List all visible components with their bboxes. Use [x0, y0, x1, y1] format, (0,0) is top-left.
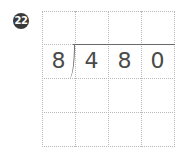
grid-line [42, 78, 175, 79]
answer-cell[interactable] [108, 11, 141, 45]
answer-cell[interactable] [75, 11, 108, 45]
grid-line [42, 112, 175, 113]
answer-cell[interactable] [141, 11, 174, 45]
grid-line [174, 11, 175, 147]
dividend-digit: 0 [141, 44, 174, 78]
answer-cell[interactable] [42, 11, 75, 45]
division-grid: 8 4 8 0 [42, 11, 175, 147]
dividend-digit: 4 [75, 44, 108, 78]
problem-number-badge: 22 [13, 13, 29, 29]
dividend-digit: 8 [108, 44, 141, 78]
grid-line [42, 146, 175, 147]
